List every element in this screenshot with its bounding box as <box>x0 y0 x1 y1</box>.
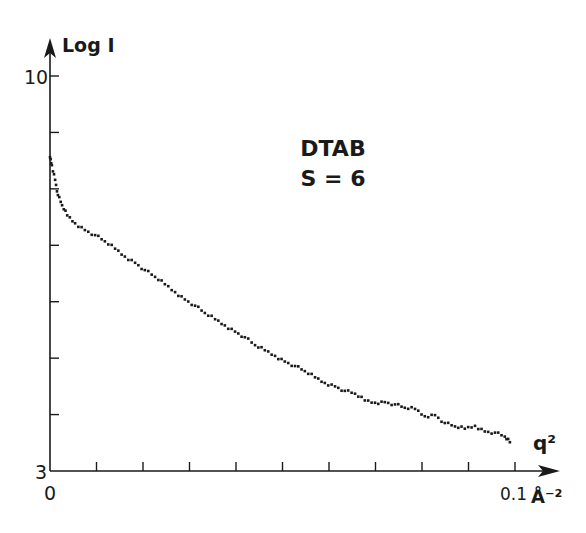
data-point <box>294 365 297 368</box>
x-ticks <box>97 462 516 471</box>
data-point <box>280 358 283 361</box>
data-point <box>270 353 273 356</box>
data-point <box>137 264 140 267</box>
data-point <box>347 389 350 392</box>
data-point <box>437 416 440 419</box>
data-point <box>52 170 55 173</box>
data-point <box>94 234 97 237</box>
x-tick-label-origin: 0 <box>44 482 56 504</box>
data-point <box>170 289 173 292</box>
data-point <box>380 400 383 403</box>
data-point <box>237 332 240 335</box>
data-point <box>64 209 67 212</box>
y-tick-label-bottom: 3 <box>35 461 47 483</box>
data-point <box>480 428 483 431</box>
data-point <box>230 328 233 331</box>
data-point <box>387 402 390 405</box>
data-point <box>217 319 220 322</box>
data-point <box>364 399 367 402</box>
data-point <box>157 279 160 282</box>
data-point <box>66 214 69 217</box>
data-point <box>180 295 183 298</box>
data-point <box>114 247 117 250</box>
data-point <box>463 427 466 430</box>
data-point <box>443 422 446 425</box>
data-point <box>200 309 203 312</box>
data-point <box>244 336 247 339</box>
data-point <box>307 373 310 376</box>
data-point <box>314 376 317 379</box>
data-point <box>127 259 130 262</box>
data-point <box>403 407 406 410</box>
data-point <box>117 249 120 252</box>
data-point <box>177 295 180 298</box>
annotation-s-value: S = 6 <box>301 166 366 191</box>
data-point <box>454 425 457 428</box>
data-point <box>160 279 163 282</box>
data-point <box>140 268 143 271</box>
data-point <box>410 406 413 409</box>
data-point <box>447 422 450 425</box>
data-point <box>390 404 393 407</box>
data-point <box>467 426 470 429</box>
data-point <box>51 164 54 167</box>
data-point <box>377 403 380 406</box>
data-point <box>483 430 486 433</box>
data-point <box>507 438 510 441</box>
x-axis-unit: Å⁻² <box>531 485 562 507</box>
data-point <box>260 346 263 349</box>
data-point <box>423 415 426 418</box>
data-point <box>457 427 460 430</box>
data-points <box>49 156 511 444</box>
data-point <box>427 416 430 419</box>
data-point <box>344 390 347 393</box>
data-point <box>474 425 477 428</box>
data-point <box>220 323 223 326</box>
data-point <box>400 405 403 408</box>
data-point <box>509 441 512 444</box>
data-point <box>210 314 213 317</box>
data-point <box>277 358 280 361</box>
data-point <box>184 298 187 301</box>
data-point <box>417 409 420 412</box>
data-point <box>144 269 147 272</box>
y-ticks <box>50 76 59 415</box>
data-point <box>327 384 330 387</box>
data-point <box>494 431 497 434</box>
data-point <box>440 420 443 423</box>
data-point <box>204 312 207 315</box>
data-point <box>130 259 133 262</box>
data-point <box>340 389 343 392</box>
data-point <box>190 304 193 307</box>
data-point <box>224 324 227 327</box>
data-point <box>187 300 190 303</box>
data-point <box>357 395 360 398</box>
data-point <box>49 158 52 161</box>
data-point <box>71 220 74 223</box>
data-point <box>367 399 370 402</box>
data-point <box>274 355 277 358</box>
data-point <box>330 383 333 386</box>
data-point <box>194 304 197 307</box>
data-point <box>234 330 237 333</box>
data-point <box>487 431 490 434</box>
data-point <box>134 261 137 264</box>
data-point <box>55 184 58 187</box>
data-point <box>334 385 337 388</box>
data-point <box>284 360 287 363</box>
data-point <box>84 229 87 232</box>
data-point <box>407 408 410 411</box>
data-point <box>54 179 57 182</box>
data-point <box>100 238 103 241</box>
data-point <box>503 435 506 438</box>
data-point <box>460 425 463 428</box>
x-tick-label-end: 0.1 <box>500 484 527 504</box>
data-point <box>264 349 267 352</box>
data-point <box>247 337 250 340</box>
data-point <box>320 380 323 383</box>
data-point <box>290 365 293 368</box>
data-point <box>300 368 303 371</box>
data-point <box>110 244 113 247</box>
data-point <box>164 283 167 286</box>
data-point <box>324 382 327 385</box>
